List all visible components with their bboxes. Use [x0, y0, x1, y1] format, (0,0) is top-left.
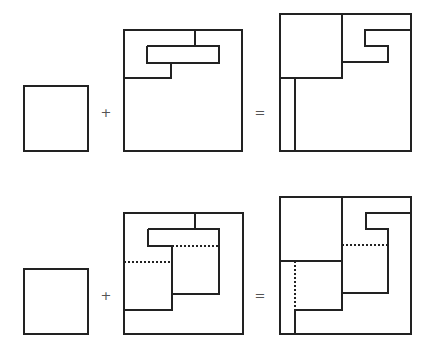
bottom-equation [24, 197, 411, 334]
square-outline [280, 197, 411, 334]
tiling-diagram: + = + = [0, 0, 434, 355]
partition-line [148, 229, 219, 294]
partition-line [280, 14, 342, 78]
result-square [280, 197, 411, 334]
partition-line [147, 46, 219, 63]
top-equation [24, 14, 411, 151]
square-outline [280, 14, 411, 151]
top-plus-sign: + [101, 106, 112, 119]
partition-line [342, 30, 411, 62]
bottom-plus-sign: + [101, 289, 112, 302]
square-outline [24, 269, 88, 334]
partition-line [295, 197, 342, 334]
partition-line [342, 213, 411, 293]
result-square [280, 14, 411, 151]
partitioned-square [124, 30, 242, 151]
top-equals-sign: = [255, 106, 266, 119]
partitioned-square [124, 213, 243, 334]
small-square [24, 86, 88, 151]
partition-line [124, 229, 172, 310]
small-square [24, 269, 88, 334]
bottom-equals-sign: = [255, 289, 266, 302]
diagram-canvas [0, 0, 434, 355]
square-outline [124, 213, 243, 334]
partition-line [124, 63, 171, 78]
square-outline [124, 30, 242, 151]
square-outline [24, 86, 88, 151]
